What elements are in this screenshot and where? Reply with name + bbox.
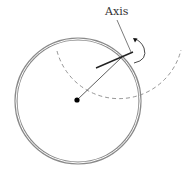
axis-leader [117, 20, 131, 52]
rotation-arrow-icon [133, 38, 145, 63]
rotation-diagram [0, 0, 188, 171]
pivot-point [74, 97, 79, 102]
radius-line [77, 57, 122, 100]
axis-label: Axis [105, 6, 128, 17]
